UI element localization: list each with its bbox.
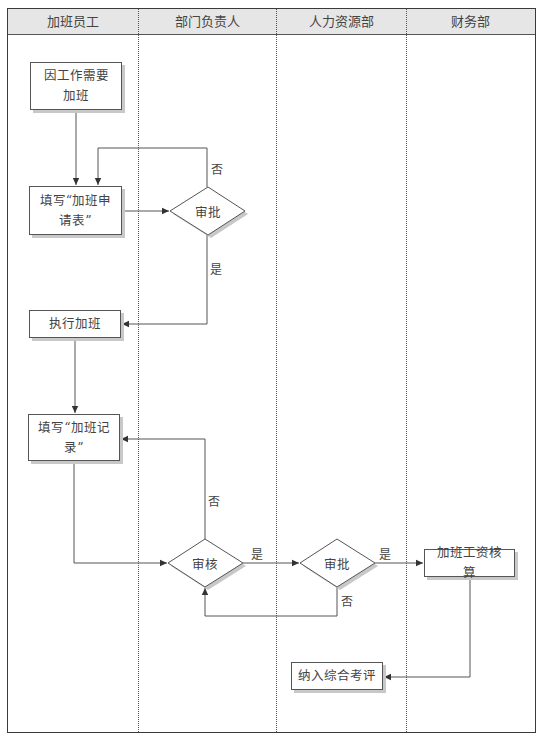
node-do-overtime-label: 执行加班: [49, 314, 101, 334]
node-fill-application-line2: 请表”: [59, 211, 91, 231]
node-hr-approve[interactable]: 审批: [324, 554, 350, 573]
edge-label-hr-approve-no: 否: [341, 592, 353, 609]
node-fill-record-line2: 录”: [64, 438, 83, 458]
node-evaluation-label: 纳入综合考评: [298, 666, 376, 686]
node-start[interactable]: 因工作需要 加班: [30, 62, 122, 110]
node-evaluation[interactable]: 纳入综合考评: [291, 662, 383, 690]
node-start-line2: 加班: [63, 86, 89, 106]
node-fill-application[interactable]: 填写“加班申 请表”: [29, 186, 122, 235]
edge-label-dept-approve-yes: 是: [210, 260, 222, 277]
edge-label-hr-approve-yes: 是: [379, 545, 391, 562]
node-start-line1: 因工作需要: [44, 66, 109, 86]
node-fill-record-line1: 填写“加班记: [38, 418, 109, 438]
flow-connectors: [0, 0, 542, 744]
edge-label-dept-approve-no: 否: [211, 160, 223, 177]
node-fill-record[interactable]: 填写“加班记 录”: [28, 414, 120, 461]
node-pay-calc-label: 加班工资核算: [431, 543, 508, 583]
node-dept-approve[interactable]: 审批: [195, 202, 221, 221]
edge-label-dept-review-no: 否: [208, 492, 220, 509]
node-dept-review[interactable]: 审核: [192, 554, 218, 573]
node-fill-application-line1: 填写“加班申: [40, 191, 111, 211]
node-do-overtime[interactable]: 执行加班: [29, 310, 121, 338]
node-pay-calc[interactable]: 加班工资核算: [424, 549, 515, 577]
edge-label-dept-review-yes: 是: [251, 545, 263, 562]
decision-diamonds: [168, 187, 378, 590]
